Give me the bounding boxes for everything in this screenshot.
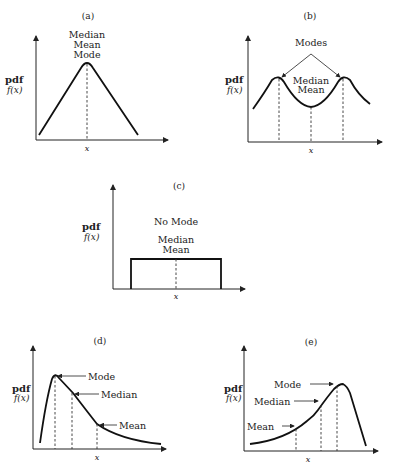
panel-e-caption: (e) [305, 337, 317, 347]
panel-c-caption: (c) [173, 181, 185, 191]
x-axis-label: x [85, 144, 90, 153]
panel-a: (a) pdf f(x) x Median Mean Mode [5, 11, 168, 153]
panel-b-caption: (b) [304, 11, 317, 21]
panel-d: (d) pdf f(x) x Mode Median Mean [12, 336, 166, 462]
central-tendency-figure: (a) pdf f(x) x Median Mean Mode (b) pdf … [0, 0, 403, 472]
left-skewed-curve [250, 384, 366, 446]
label-mode: Mode [88, 371, 116, 382]
panel-a-caption: (a) [82, 11, 94, 21]
panel-c: (c) pdf f(x) x No Mode Median Mean [82, 181, 245, 301]
y-axis-label-fx: f(x) [6, 85, 23, 95]
y-axis-label-fx: f(x) [83, 232, 100, 242]
x-axis-label: x [306, 455, 311, 464]
y-axis-label-pdf: pdf [82, 221, 101, 232]
y-axis-label-pdf: pdf [5, 74, 24, 85]
y-axis-label-pdf: pdf [225, 74, 244, 85]
label-mode: Mode [73, 49, 101, 60]
modes-arrow-left [282, 54, 311, 77]
modes-arrow-right [311, 54, 340, 77]
label-median: Median [101, 389, 137, 400]
label-no-mode: No Mode [154, 216, 199, 227]
label-mean: Mean [297, 84, 324, 95]
x-axis-label: x [309, 146, 314, 155]
panel-d-caption: (d) [94, 336, 107, 346]
y-axis-label-fx: f(x) [13, 393, 30, 403]
label-modes: Modes [295, 37, 327, 48]
label-mode: Mode [274, 379, 302, 390]
label-mean: Mean [119, 420, 146, 431]
panel-e: (e) pdf f(x) x Mode Median Mean [224, 337, 378, 464]
right-skewed-curve [40, 375, 161, 444]
y-axis-label-fx: f(x) [225, 393, 242, 403]
label-mean: Mean [247, 421, 274, 432]
y-axis-label-fx: f(x) [226, 85, 243, 95]
x-axis-label: x [95, 453, 100, 462]
label-mean: Mean [162, 244, 189, 255]
label-median: Median [254, 396, 290, 407]
x-axis-label: x [174, 292, 179, 301]
symmetric-curve [39, 63, 138, 135]
panel-b: (b) pdf f(x) x Modes Median Mean [225, 11, 382, 155]
